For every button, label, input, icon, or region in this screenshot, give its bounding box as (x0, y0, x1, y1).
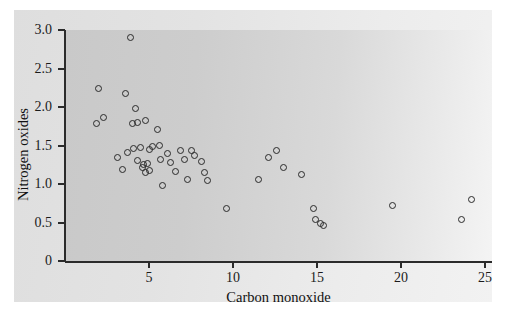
y-tick-label: 2.5 (0, 62, 52, 76)
y-tick-label: 3.0 (0, 23, 52, 37)
y-tick-mark (58, 145, 65, 147)
data-point (223, 205, 230, 212)
data-point (198, 158, 205, 165)
x-tick-mark (316, 261, 318, 268)
x-tick-mark (232, 261, 234, 268)
x-axis-line (65, 261, 492, 263)
data-point (156, 142, 163, 149)
data-point (149, 143, 156, 150)
x-tick-label: 25 (465, 271, 505, 285)
data-point (191, 152, 198, 159)
x-tick-mark (484, 261, 486, 268)
y-tick-mark (58, 222, 65, 224)
y-tick-mark (58, 29, 65, 31)
x-tick-label: 15 (297, 271, 337, 285)
data-point (114, 154, 121, 161)
x-tick-mark (148, 261, 150, 268)
data-point (184, 176, 191, 183)
data-point (134, 119, 141, 126)
data-point (154, 126, 161, 133)
data-point (255, 176, 262, 183)
y-tick-mark (58, 106, 65, 108)
x-tick-label: 20 (381, 271, 421, 285)
data-point (280, 164, 287, 171)
data-point (201, 169, 208, 176)
scatter-plot-figure: 00.51.01.52.02.53.0 510152025 Carbon mon… (0, 0, 506, 316)
data-point (458, 216, 465, 223)
data-point (181, 156, 188, 163)
data-point (468, 196, 475, 203)
plot-area (65, 30, 492, 262)
data-point (164, 150, 171, 157)
x-axis-title: Carbon monoxide (65, 289, 492, 306)
y-axis-title: Nitrogen oxides (15, 80, 32, 230)
data-point (265, 154, 272, 161)
x-tick-label: 5 (129, 271, 169, 285)
data-point (159, 182, 166, 189)
y-tick-label: 0 (0, 254, 52, 268)
y-tick-mark (58, 183, 65, 185)
data-point (204, 177, 211, 184)
y-tick-mark (58, 68, 65, 70)
y-tick-mark (58, 260, 65, 262)
data-point (119, 166, 126, 173)
data-point (146, 167, 153, 174)
x-tick-label: 10 (213, 271, 253, 285)
x-tick-mark (400, 261, 402, 268)
